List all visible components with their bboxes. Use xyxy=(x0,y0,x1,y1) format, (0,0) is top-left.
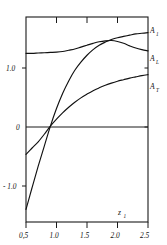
curve-label-a1-text: A xyxy=(149,26,155,35)
figure-background xyxy=(0,0,167,245)
chart-plot-area: 1.0 0 - 1.0 0,5 1.0 1.5 2.0 2.5 z 1 A 1 … xyxy=(0,0,167,245)
ytick-label-0: 0 xyxy=(16,123,20,132)
xtick-label-0: 0,5 xyxy=(19,231,29,240)
ytick-label-2: - 1.0 xyxy=(3,182,17,191)
curve-label-at-text: A xyxy=(149,82,155,91)
curve-label-al-subscript: L xyxy=(155,59,159,65)
xtick-label-3: 2.0 xyxy=(111,231,121,240)
curve-label-al-text: A xyxy=(149,54,155,63)
xtick-label-2: 1.5 xyxy=(80,231,90,240)
x-axis-title-text: z xyxy=(117,208,121,217)
xtick-label-1: 1.0 xyxy=(50,231,60,240)
curve-label-a1-subscript: 1 xyxy=(156,31,159,37)
x-axis-title-subscript: 1 xyxy=(124,213,127,219)
xtick-label-4: 2.5 xyxy=(140,231,150,240)
chart-figure: 1.0 0 - 1.0 0,5 1.0 1.5 2.0 2.5 z 1 A 1 … xyxy=(0,0,167,245)
ytick-label-1: 1.0 xyxy=(6,64,16,73)
